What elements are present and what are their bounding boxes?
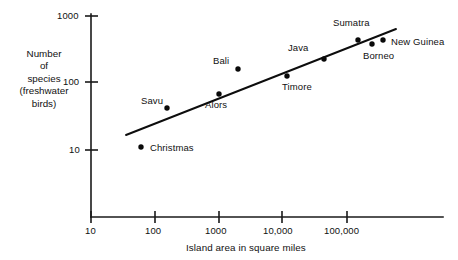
data-point-new-guinea [380, 37, 385, 42]
point-label-christmas: Christmas [150, 142, 194, 153]
point-label-alors: Alors [205, 99, 227, 110]
trend-line [126, 29, 396, 135]
data-point-borneo [369, 41, 374, 46]
point-label-sumatra: Sumatra [333, 17, 370, 28]
data-point-timore [284, 73, 289, 78]
data-point-christmas [138, 144, 143, 149]
y-axis-title-line-4: birds) [4, 98, 84, 110]
point-label-java: Java [288, 42, 308, 53]
y-axis-title-line-0: Number [4, 48, 84, 60]
y-axis-title-line-2: species [4, 73, 84, 85]
y-axis-title-line-3: (freshwater [4, 85, 84, 97]
data-point-sumatra [355, 37, 360, 42]
y-axis-title: Numberofspecies(freshwaterbirds) [4, 48, 84, 110]
x-tick-label-100: 100 [145, 225, 161, 236]
x-tick-label-10000: 10,000 [263, 225, 293, 236]
point-label-savu: Savu [141, 95, 163, 106]
plot-canvas [0, 0, 458, 260]
y-axis-title-line-1: of [4, 60, 84, 72]
data-points [138, 37, 385, 149]
x-tick-label-100000: 100,000 [324, 225, 359, 236]
point-label-new-guinea: New Guinea [391, 36, 444, 47]
point-label-timore: Timore [282, 81, 312, 92]
data-point-alors [216, 91, 221, 96]
point-label-bali: Bali [213, 55, 229, 66]
scatter-chart: 1000 100 10 10 100 1000 10,000 100,000 I… [0, 0, 458, 260]
x-tick-label-1000: 1000 [205, 225, 227, 236]
point-label-borneo: Borneo [363, 50, 394, 61]
x-axis-title: Island area in square miles [186, 242, 306, 254]
data-point-savu [164, 105, 169, 110]
data-point-bali [235, 66, 240, 71]
y-tick-label-1000: 1000 [57, 10, 79, 21]
y-tick-label-10: 10 [69, 144, 80, 155]
data-point-java [321, 56, 326, 61]
x-tick-label-10: 10 [85, 225, 96, 236]
